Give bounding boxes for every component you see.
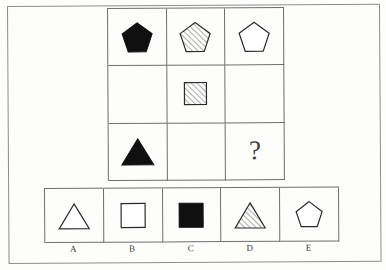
option-label-d: D bbox=[220, 242, 279, 256]
triangle-white-icon bbox=[57, 200, 91, 230]
matrix-cell-r1c3 bbox=[225, 8, 284, 66]
option-cell-d[interactable] bbox=[221, 188, 280, 242]
square-hatched-icon bbox=[183, 81, 209, 107]
empty-cell-marker bbox=[137, 94, 138, 95]
option-cell-c[interactable] bbox=[163, 188, 222, 242]
option-cell-e[interactable] bbox=[280, 187, 339, 241]
answer-option-labels: A B C D E bbox=[44, 241, 338, 257]
empty-cell-marker bbox=[254, 93, 255, 94]
matrix-cell-r3c1 bbox=[109, 123, 168, 181]
pentagon-hatched-icon bbox=[179, 20, 213, 53]
option-cell-a[interactable] bbox=[45, 189, 104, 243]
square-white-icon bbox=[119, 201, 147, 229]
missing-piece-question-mark: ? bbox=[249, 138, 261, 165]
empty-cell-marker bbox=[196, 151, 197, 152]
option-label-a: A bbox=[44, 243, 103, 257]
option-label-c: C bbox=[162, 242, 221, 256]
triangle-hatched-icon bbox=[233, 199, 267, 229]
figure-matrix-puzzle: ? bbox=[0, 0, 386, 270]
matrix-cell-r1c2 bbox=[167, 8, 226, 66]
option-label-e: E bbox=[279, 241, 338, 255]
answer-options-row bbox=[44, 186, 339, 243]
triangle-solid-black-icon bbox=[119, 136, 155, 167]
matrix-grid: ? bbox=[107, 7, 285, 181]
option-label-b: B bbox=[103, 242, 162, 256]
matrix-cell-r3c2 bbox=[167, 123, 226, 181]
pentagon-solid-black-icon bbox=[120, 20, 154, 53]
matrix-cell-r3c3: ? bbox=[226, 123, 285, 181]
matrix-cell-r2c2 bbox=[167, 66, 226, 124]
matrix-cell-r2c3 bbox=[226, 65, 285, 123]
matrix-cell-r1c1 bbox=[108, 9, 167, 67]
square-solid-black-icon bbox=[178, 201, 206, 229]
matrix-cell-r2c1 bbox=[108, 66, 167, 124]
option-cell-b[interactable] bbox=[104, 188, 163, 242]
pentagon-white-icon bbox=[294, 200, 324, 229]
pentagon-white-icon bbox=[237, 20, 271, 53]
